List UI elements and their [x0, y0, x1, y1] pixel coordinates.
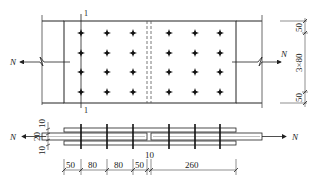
- dim-top-edge: 50: [294, 23, 304, 33]
- bolt-group-left: [77, 29, 137, 96]
- side-view: N N 10 20 10: [9, 119, 299, 176]
- section-label-bottom: 1: [84, 106, 88, 115]
- dim-right-span: 260: [185, 160, 199, 170]
- bottom-splice-plate: [64, 141, 236, 145]
- dim-top-plate-thickness: 10: [37, 119, 47, 129]
- force-label-left-side: N: [9, 132, 17, 142]
- dim-gap: 10: [145, 150, 155, 160]
- plan-view: 1 1 N N: [9, 9, 308, 115]
- force-label-right: N: [280, 49, 288, 59]
- dim-edge-left: 50: [66, 160, 76, 170]
- plan-right-dimensions: 50 3×80 50: [280, 18, 308, 107]
- dim-bottom-plate-thickness: 10: [37, 146, 47, 156]
- bolt-group-right: [165, 29, 224, 96]
- top-splice-plate: [64, 128, 236, 132]
- dim-bottom-edge: 50: [294, 93, 304, 103]
- section-label-top: 1: [84, 9, 88, 18]
- dim-pitch-2: 80: [114, 160, 124, 170]
- dim-main-plate-thickness: 20: [32, 132, 42, 142]
- force-right: N: [232, 49, 288, 66]
- side-bottom-dimensions: 50 80 80 50 10 260: [62, 150, 238, 175]
- force-label-left: N: [9, 57, 17, 67]
- force-label-right-side: N: [291, 132, 299, 142]
- dim-bolt-pitch: 3×80: [294, 53, 304, 72]
- dim-pitch-1: 80: [88, 160, 98, 170]
- splice-connection-diagram: 1 1 N N: [0, 0, 320, 191]
- splice-plate: [64, 21, 236, 103]
- dim-edge-mid: 50: [135, 160, 145, 170]
- force-left: N: [9, 57, 70, 67]
